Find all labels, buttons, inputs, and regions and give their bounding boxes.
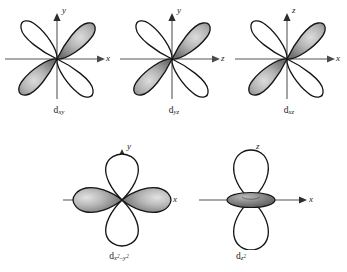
lobe-shaded-q1-dxz (287, 23, 325, 59)
axis-label-horizontal-dxy: x (106, 54, 110, 63)
orbital-label-dyz: dyz (117, 106, 231, 116)
orbital-label-sub-dyz: yz (174, 108, 180, 115)
orbital-diagram-dxy: y x dxy (2, 4, 116, 122)
orbital-label-dx2-y2: dx2–y2 (54, 252, 184, 262)
orbital-svg-dx2-y2 (60, 140, 190, 250)
axis-label-horizontal-dx2-y2: x (173, 195, 177, 204)
axis-label-vertical-dz2: z (256, 142, 260, 151)
orbital-diagram-dz2: z x dz2 (196, 140, 326, 268)
lobe-shaded-q3-dxy (19, 59, 57, 95)
orbital-svg-dxy (2, 4, 116, 104)
orbital-label-sup-z2: 2 (243, 253, 246, 259)
orbital-label-dz2: dz2 (176, 252, 306, 262)
axis-label-vertical-dx2-y2: y (127, 142, 131, 151)
lobe-shaded-q3-dxz (249, 59, 287, 95)
orbital-label-sub-dx2-y2: x2–y2 (114, 254, 129, 261)
orbital-svg-dxz (232, 4, 346, 104)
lobe-white-q4-dyz (172, 59, 208, 97)
lobe-white-q2-dxy (21, 21, 57, 59)
lobe-shaded-q1-dyz (172, 23, 210, 59)
axis-label-vertical-dxz: z (292, 6, 296, 15)
torus-shaded-dz2 (227, 193, 275, 208)
d-orbital-figure: y x dxy (0, 0, 347, 272)
axis-label-horizontal-dxz: x (336, 54, 340, 63)
axis-label-horizontal-dz2: x (309, 195, 313, 204)
lobe-white-q4-dxy (57, 59, 93, 97)
lobe-white-q2-dxz (251, 21, 287, 59)
axis-label-horizontal-dyz: z (221, 54, 225, 63)
orbital-label-sub-dxz: xz (289, 108, 295, 115)
orbital-diagram-dx2-y2: y x dx2–y2 (60, 140, 190, 268)
orbital-svg-dyz (117, 4, 231, 104)
lobe-shaded-q1-dxy (57, 23, 95, 59)
lobe-shaded-q3-dyz (134, 59, 172, 95)
orbital-svg-dz2 (196, 140, 326, 250)
orbital-label-sub-dz2: z2 (241, 254, 246, 261)
orbital-label-dxy: dxy (2, 106, 116, 116)
orbital-label-sup-2: 2 (126, 253, 129, 259)
lobe-white-q4-dxz (287, 59, 323, 97)
orbital-diagram-dyz: y z dyz (117, 4, 231, 122)
orbital-diagram-dxz: z x dxz (232, 4, 346, 122)
orbital-label-sub-dxy: xy (58, 108, 64, 115)
axis-label-vertical-dxy: y (62, 6, 66, 15)
lobe-white-q2-dyz (136, 21, 172, 59)
orbital-label-dxz: dxz (232, 106, 346, 116)
axis-label-vertical-dyz: y (177, 6, 181, 15)
